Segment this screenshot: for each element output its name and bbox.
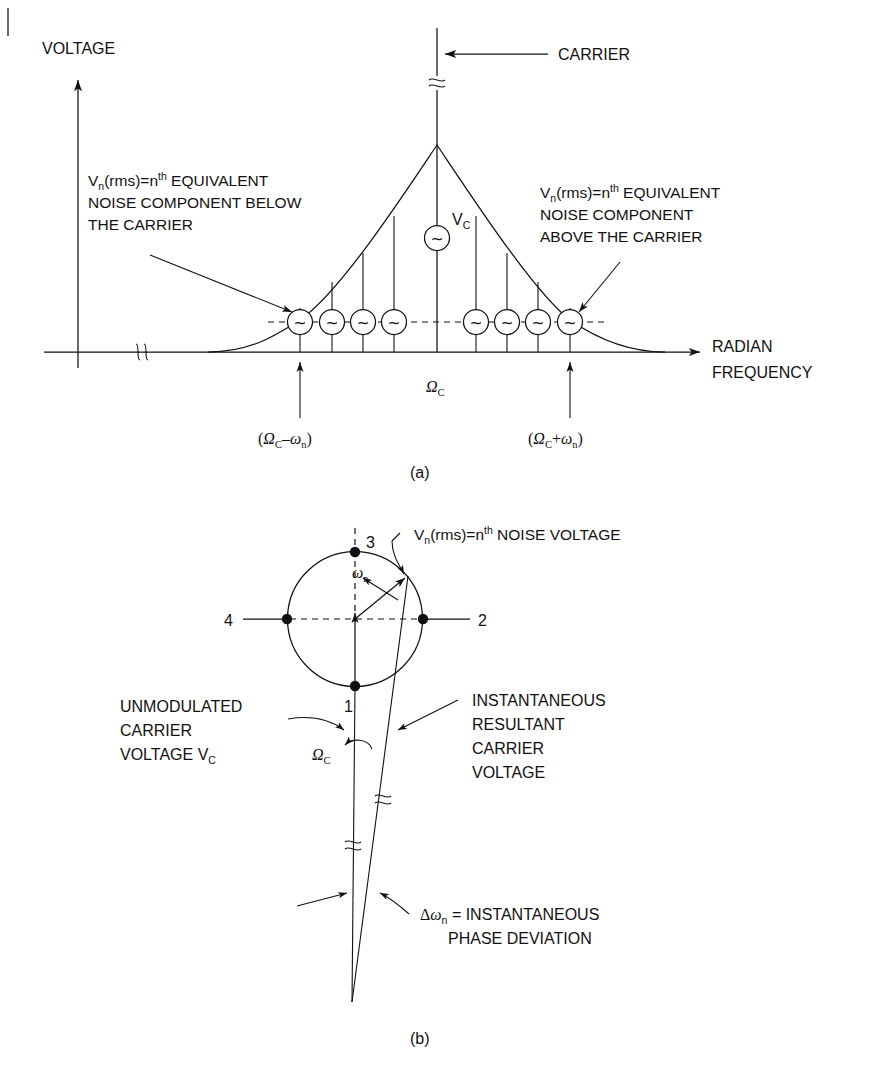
noise-voltage-phasor-arrow bbox=[355, 578, 405, 619]
phase-deviation-arrow-right bbox=[380, 893, 409, 914]
resultant-line-break-icon bbox=[375, 795, 391, 804]
unmodulated-carrier-line bbox=[352, 686, 355, 1002]
left-annotation-leader bbox=[150, 255, 292, 312]
panel-a-x-axis-label-line1: RADIAN bbox=[712, 338, 772, 355]
noise-source-glyph: ∼ bbox=[357, 314, 370, 331]
phasor-point-4 bbox=[282, 614, 292, 624]
noise-source-glyph: ∼ bbox=[564, 314, 577, 331]
carrier-frequency-symbol: ΩC bbox=[426, 378, 445, 398]
right-annotation-line2: NOISE COMPONENT bbox=[540, 206, 694, 223]
upper-sideband-label: (ΩC+ωn) bbox=[528, 430, 583, 450]
phasor-point-3 bbox=[350, 547, 360, 557]
panel-a-caption: (a) bbox=[410, 464, 430, 481]
lower-sideband-label: (ΩC–ωn) bbox=[258, 430, 312, 450]
unmodulated-label-line2: CARRIER bbox=[120, 722, 192, 739]
resultant-label-line2: RESULTANT bbox=[472, 716, 565, 733]
noise-source-glyph: ∼ bbox=[470, 314, 483, 331]
phasor-point-3-label: 3 bbox=[366, 534, 375, 551]
left-annotation-line3: THE CARRIER bbox=[88, 216, 193, 233]
omega-n-label: ωn bbox=[352, 564, 369, 584]
resultant-label-line4: VOLTAGE bbox=[472, 764, 545, 781]
phase-deviation-label-line2: PHASE DEVIATION bbox=[448, 930, 592, 947]
phase-deviation-arrow-left bbox=[297, 893, 347, 906]
resultant-label-line3: CARRIER bbox=[472, 740, 544, 757]
phasor-point-1-label: 1 bbox=[344, 698, 353, 715]
right-annotation-line3: ABOVE THE CARRIER bbox=[540, 228, 703, 245]
instantaneous-resultant-line bbox=[352, 576, 408, 1002]
omega-c-rotation-arc bbox=[345, 740, 372, 749]
left-annotation-line1: Vn(rms)=nth EQUIVALENT bbox=[88, 170, 269, 192]
phasor-point-4-label: 4 bbox=[224, 612, 233, 629]
resultant-label-line1: INSTANTANEOUS bbox=[472, 692, 606, 709]
unmodulated-label-leader bbox=[288, 718, 344, 730]
noise-source-glyph: ∼ bbox=[326, 314, 339, 331]
phase-deviation-label-line1: Δωn = INSTANTANEOUS bbox=[420, 906, 599, 926]
noise-source-glyph: ∼ bbox=[294, 314, 307, 331]
noise-voltage-annotation: Vn(rms)=nth NOISE VOLTAGE bbox=[414, 524, 621, 546]
carrier-voltage-symbol: VC bbox=[452, 211, 471, 231]
panel-b-caption: (b) bbox=[410, 1030, 430, 1047]
phasor-point-2 bbox=[418, 614, 428, 624]
noise-source-glyph: ∼ bbox=[388, 314, 401, 331]
carrier-label: CARRIER bbox=[558, 46, 630, 63]
unmodulated-label-line1: UNMODULATED bbox=[120, 698, 242, 715]
figure-svg: ∼ ∼ ∼ ∼ ∼ ∼ ∼ ∼ ∼ bbox=[0, 0, 876, 1080]
noise-voltage-label-leader bbox=[392, 533, 404, 574]
panel-a-y-axis-label: VOLTAGE bbox=[42, 40, 115, 57]
carrier-source-glyph: ∼ bbox=[431, 230, 444, 247]
phasor-point-2-label: 2 bbox=[478, 612, 487, 629]
left-annotation-line2: NOISE COMPONENT BELOW bbox=[88, 194, 302, 211]
right-annotation-line1: Vn(rms)=nth EQUIVALENT bbox=[540, 182, 721, 204]
noise-source-glyph: ∼ bbox=[532, 314, 545, 331]
carrier-break-icon bbox=[429, 79, 445, 87]
unmodulated-label-line3: VOLTAGE VC bbox=[120, 746, 216, 766]
resultant-label-leader bbox=[398, 700, 458, 730]
figure-canvas: ∼ ∼ ∼ ∼ ∼ ∼ ∼ ∼ ∼ bbox=[0, 0, 876, 1080]
carrier-rotation-label: ΩC bbox=[312, 746, 331, 766]
noise-source-glyph: ∼ bbox=[501, 314, 514, 331]
right-annotation-leader bbox=[579, 262, 620, 312]
panel-a-x-axis-label-line2: FREQUENCY bbox=[712, 364, 813, 381]
